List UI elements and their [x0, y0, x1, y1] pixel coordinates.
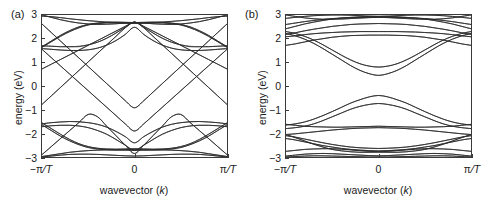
x-tick-label: 0	[132, 163, 138, 175]
y-tick-label: 1	[262, 56, 281, 68]
band-curve	[42, 24, 227, 108]
band-curve	[42, 125, 227, 150]
band-curve	[286, 16, 471, 28]
y-tick-mark	[41, 86, 45, 87]
band-curve	[42, 22, 227, 47]
panel-b-label: (b)	[245, 8, 258, 20]
panel-a-plot-area	[41, 14, 228, 158]
y-tick-mark	[285, 14, 289, 15]
y-tick-mark	[285, 38, 289, 39]
panel-b-xaxis-title: wavevector (k)	[344, 184, 412, 196]
band-curve	[286, 32, 471, 37]
band-curve	[286, 104, 471, 129]
band-curve	[42, 22, 227, 47]
panel-b-xaxis-title-text: wavevector (k)	[344, 184, 412, 196]
x-tick-label: 0	[376, 163, 382, 175]
band-curve	[286, 136, 471, 149]
band-curve	[286, 124, 471, 127]
band-curve	[42, 22, 227, 104]
y-tick-mark	[41, 110, 45, 111]
band-structure-figure: (a) 3210−1−2−3 energy (eV) −π/T0π/T wave…	[0, 0, 487, 207]
band-curve	[286, 15, 471, 18]
x-tick-label: π/T	[464, 163, 480, 175]
band-curve	[286, 16, 471, 28]
y-tick-label: 3	[262, 8, 281, 20]
x-tick-mark	[379, 154, 380, 158]
y-tick-mark	[285, 86, 289, 87]
band-curve	[42, 22, 227, 69]
y-tick-mark	[41, 134, 45, 135]
band-curve	[42, 22, 227, 47]
band-curve	[42, 23, 227, 48]
band-curve	[286, 149, 471, 152]
x-tick-mark	[472, 154, 473, 158]
y-tick-label: 2	[18, 32, 37, 44]
y-tick-label: 3	[18, 8, 37, 20]
band-curve	[286, 32, 471, 68]
panel-a-xaxis-title-text: wavevector (k)	[100, 184, 168, 196]
band-curve	[286, 95, 471, 125]
band-curve	[42, 49, 227, 131]
x-tick-mark	[41, 154, 42, 158]
y-tick-mark	[41, 38, 45, 39]
x-tick-label: π/T	[220, 163, 236, 175]
band-curve	[42, 23, 227, 48]
panel-a-xaxis-title: wavevector (k)	[100, 184, 168, 196]
panel-b-curves	[286, 15, 471, 157]
band-curve	[42, 22, 227, 69]
band-curve	[286, 128, 471, 135]
band-curve	[42, 22, 227, 104]
band-curve	[286, 136, 471, 149]
x-tick-mark	[135, 154, 136, 158]
band-curve	[42, 125, 227, 150]
y-tick-mark	[285, 110, 289, 111]
panel-a-curves	[42, 15, 227, 157]
panel-b: (b) 3210−1−2−3 energy (eV) −π/T0π/T wave…	[244, 0, 487, 207]
y-tick-mark	[41, 158, 45, 159]
band-curve	[42, 123, 227, 149]
y-tick-label: 1	[18, 56, 37, 68]
x-tick-label: −π/T	[274, 163, 297, 175]
band-curve	[42, 24, 227, 108]
panel-a: (a) 3210−1−2−3 energy (eV) −π/T0π/T wave…	[0, 0, 243, 207]
band-curve	[286, 32, 471, 68]
y-tick-mark	[41, 62, 45, 63]
y-tick-mark	[285, 158, 289, 159]
x-tick-label: −π/T	[30, 163, 53, 175]
x-tick-mark	[228, 154, 229, 158]
band-curve	[286, 128, 471, 135]
band-curve	[286, 24, 471, 35]
x-tick-mark	[285, 154, 286, 158]
band-curve	[286, 32, 471, 37]
band-curve	[42, 49, 227, 131]
band-curve	[42, 125, 227, 150]
panel-b-yaxis-title: energy (eV)	[256, 70, 268, 125]
y-tick-label: −2	[262, 128, 281, 140]
y-tick-mark	[285, 62, 289, 63]
band-curve	[286, 95, 471, 125]
y-tick-label: 2	[262, 32, 281, 44]
panel-a-yaxis-title: energy (eV)	[12, 70, 24, 125]
band-curve	[286, 104, 471, 129]
band-curve	[42, 123, 227, 149]
y-tick-label: −2	[18, 128, 37, 140]
band-curve	[42, 22, 227, 47]
y-tick-mark	[41, 14, 45, 15]
y-tick-mark	[285, 134, 289, 135]
band-curve	[42, 125, 227, 150]
panel-b-plot-area	[285, 14, 472, 158]
